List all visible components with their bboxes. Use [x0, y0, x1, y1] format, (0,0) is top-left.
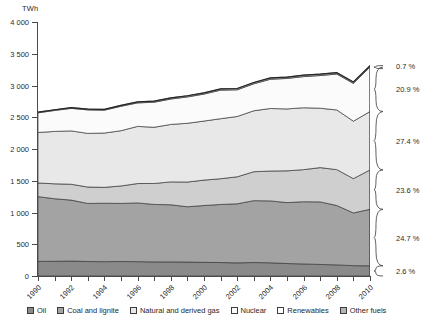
- bracket-natural-and-derived-gas: [374, 170, 383, 209]
- x-tick: [104, 277, 105, 281]
- y-tick-label: 500: [0, 240, 29, 249]
- legend-label: Coal and lignite: [67, 306, 119, 315]
- x-tick: [171, 277, 172, 281]
- y-axis-unit-label: TWh: [22, 4, 38, 13]
- x-tick: [353, 277, 354, 281]
- area-series-coal-and-lignite: [38, 197, 370, 266]
- x-tick-label: 1998: [158, 283, 176, 301]
- x-tick: [304, 277, 305, 281]
- x-tick: [221, 277, 222, 281]
- x-tick-label: 2004: [257, 283, 275, 301]
- y-tick-label: 2 500: [0, 113, 29, 122]
- x-tick: [38, 277, 39, 281]
- percentage-label-oil: 2.6 %: [396, 267, 415, 276]
- bracket-coal-and-lignite: [374, 209, 383, 266]
- y-tick-label: 0: [0, 272, 29, 281]
- x-tick: [270, 277, 271, 281]
- y-tick-label: 3 500: [0, 50, 29, 59]
- x-tick: [55, 277, 56, 281]
- legend-label: Other fuels: [350, 306, 387, 315]
- bracket-renewables: [374, 67, 383, 111]
- y-tick-label: 4 000: [0, 18, 29, 27]
- x-tick-label: 2000: [191, 283, 209, 301]
- x-tick: [154, 277, 155, 281]
- x-tick: [187, 277, 188, 281]
- x-tick: [370, 277, 371, 281]
- percentage-bracket-annotations: 0.7 %20.9 %27.4 %23.6 %24.7 %2.6 %: [372, 22, 435, 278]
- x-tick: [337, 277, 338, 281]
- y-tick-label: 3 000: [0, 82, 29, 91]
- x-tick: [237, 277, 238, 281]
- x-tick: [287, 277, 288, 281]
- x-tick: [254, 277, 255, 281]
- legend-item-oil[interactable]: Oil: [27, 306, 46, 315]
- legend-swatch-icon: [231, 307, 238, 314]
- bracket-nuclear: [374, 112, 383, 170]
- chart-root: TWh 05001 0001 5002 0002 5003 0003 5004 …: [0, 0, 435, 320]
- x-tick-label: 2006: [290, 283, 308, 301]
- x-tick-label: 1994: [91, 283, 109, 301]
- legend-swatch-icon: [27, 307, 34, 314]
- percentage-label-nuclear: 27.4 %: [396, 137, 419, 146]
- legend-item-renewables[interactable]: Renewables: [277, 306, 328, 315]
- x-tick-label: 2010: [357, 283, 375, 301]
- x-tick-label: 2008: [324, 283, 342, 301]
- percentage-label-renewables: 20.9 %: [396, 85, 419, 94]
- chart-legend: OilCoal and ligniteNatural and derived g…: [27, 303, 417, 317]
- x-tick-label: 1992: [58, 283, 76, 301]
- x-tick: [121, 277, 122, 281]
- legend-swatch-icon: [340, 307, 347, 314]
- y-tick-label: 1 500: [0, 177, 29, 186]
- legend-item-coal-and-lignite[interactable]: Coal and lignite: [57, 306, 119, 315]
- legend-label: Oil: [37, 306, 46, 315]
- y-tick-label: 1 000: [0, 209, 29, 218]
- x-tick: [204, 277, 205, 281]
- x-tick: [320, 277, 321, 281]
- x-tick-label: 1996: [124, 283, 142, 301]
- legend-item-natural-and-derived-gas[interactable]: Natural and derived gas: [130, 306, 220, 315]
- bracket-curly-icon: [372, 22, 394, 278]
- x-tick: [138, 277, 139, 281]
- x-tick-label: 1990: [25, 283, 43, 301]
- legend-item-nuclear[interactable]: Nuclear: [231, 306, 267, 315]
- legend-swatch-icon: [130, 307, 137, 314]
- legend-swatch-icon: [57, 307, 64, 314]
- bracket-oil: [374, 266, 383, 276]
- legend-label: Nuclear: [241, 306, 267, 315]
- x-tick: [88, 277, 89, 281]
- percentage-label-natural-and-derived-gas: 23.6 %: [396, 186, 419, 195]
- percentage-label-coal-and-lignite: 24.7 %: [396, 234, 419, 243]
- plot-area: [38, 22, 370, 276]
- legend-item-other-fuels[interactable]: Other fuels: [340, 306, 387, 315]
- x-tick-label: 2002: [224, 283, 242, 301]
- x-tick: [71, 277, 72, 281]
- legend-swatch-icon: [277, 307, 284, 314]
- legend-label: Renewables: [287, 306, 328, 315]
- percentage-label-other-fuels: 0.7 %: [396, 62, 415, 71]
- legend-label: Natural and derived gas: [140, 306, 220, 315]
- y-tick-label: 2 000: [0, 145, 29, 154]
- stacked-area-series: [38, 22, 370, 276]
